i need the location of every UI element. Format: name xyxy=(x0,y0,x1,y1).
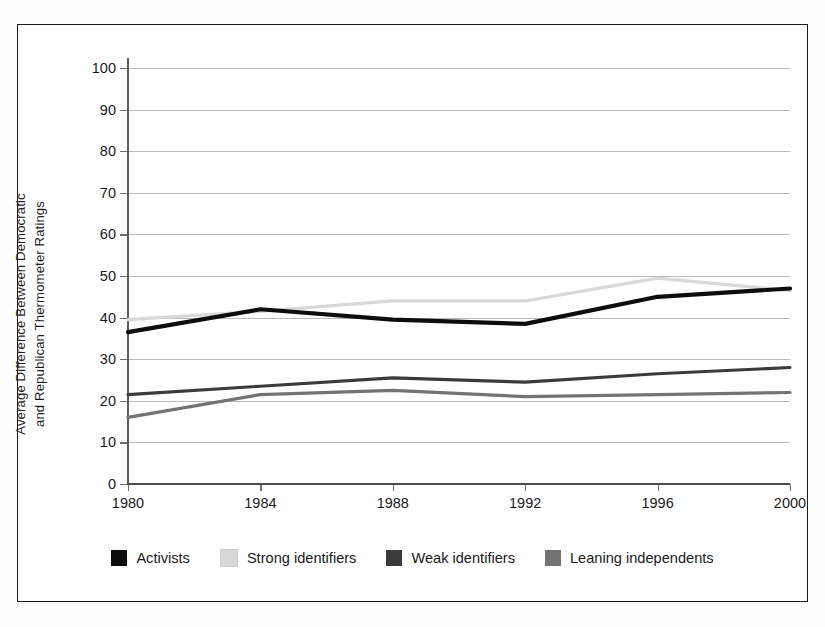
y-tick-label: 10 xyxy=(100,434,116,450)
series-line xyxy=(128,390,790,417)
y-tick-label: 80 xyxy=(100,143,116,159)
legend-swatch-icon xyxy=(111,550,127,566)
legend: ActivistsStrong identifiersWeak identifi… xyxy=(17,549,808,567)
x-tick-label: 1980 xyxy=(112,495,144,511)
x-tick-label: 1992 xyxy=(509,495,541,511)
x-tick-mark xyxy=(260,484,261,491)
y-tick-label: 40 xyxy=(100,310,116,326)
series-lines xyxy=(128,68,790,484)
x-tick-label: 2000 xyxy=(774,495,806,511)
y-tick-label: 0 xyxy=(108,476,116,492)
x-tick-mark xyxy=(525,484,526,491)
plot-area: 0102030405060708090100 19801984198819921… xyxy=(128,68,790,484)
legend-swatch-icon xyxy=(220,549,238,567)
y-tick-label: 50 xyxy=(100,268,116,284)
x-tick-label: 1988 xyxy=(377,495,409,511)
legend-item[interactable]: Leaning independents xyxy=(545,550,714,566)
y-tick-label: 20 xyxy=(100,393,116,409)
x-tick-mark xyxy=(128,484,129,491)
legend-swatch-icon xyxy=(386,550,402,566)
legend-label: Activists xyxy=(136,550,190,566)
x-tick-label: 1996 xyxy=(641,495,673,511)
legend-label: Strong identifiers xyxy=(247,550,357,566)
x-tick-mark xyxy=(658,484,659,491)
series-line xyxy=(128,288,790,332)
legend-label: Weak identifiers xyxy=(411,550,515,566)
legend-item[interactable]: Strong identifiers xyxy=(220,549,357,567)
legend-item[interactable]: Weak identifiers xyxy=(386,550,515,566)
x-tick-mark xyxy=(393,484,394,491)
y-tick-label: 70 xyxy=(100,185,116,201)
x-tick-mark xyxy=(790,484,791,491)
y-tick-label: 60 xyxy=(100,226,116,242)
series-line xyxy=(128,368,790,395)
y-tick-label: 30 xyxy=(100,351,116,367)
legend-label: Leaning independents xyxy=(570,550,714,566)
figure: Average Difference Between Democratic an… xyxy=(0,0,825,627)
legend-item[interactable]: Activists xyxy=(111,550,190,566)
x-tick-label: 1984 xyxy=(244,495,276,511)
legend-swatch-icon xyxy=(545,550,561,566)
plot-inner: 0102030405060708090100 19801984198819921… xyxy=(128,68,790,484)
y-tick-label: 100 xyxy=(92,60,116,76)
y-tick-label: 90 xyxy=(100,102,116,118)
